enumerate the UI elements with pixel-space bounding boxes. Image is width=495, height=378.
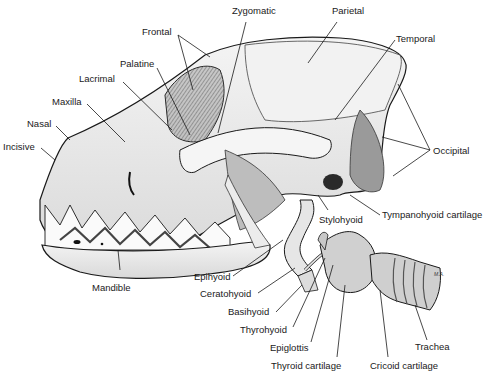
thyroid-cartilage-shape: [320, 232, 376, 293]
label-trachea: Trachea: [415, 341, 450, 352]
label-parietal: Parietal: [332, 5, 364, 16]
label-maxilla: Maxilla: [52, 96, 82, 107]
skull-diagram: Frontal Zygomatic Parietal Palatine Temp…: [0, 0, 495, 378]
label-occipital: Occipital: [433, 145, 469, 156]
label-frontal: Frontal: [142, 26, 172, 37]
label-palatine: Palatine: [120, 58, 154, 69]
label-tympanohyoid-cartilage: Tympanohyoid cartilage: [382, 209, 482, 220]
label-nasal: Nasal: [27, 118, 51, 129]
artist-signature: M.A.: [434, 271, 444, 277]
label-mandible: Mandible: [92, 282, 131, 293]
label-epihyoid: Epihyoid: [194, 271, 230, 282]
label-zygomatic: Zygomatic: [232, 5, 276, 16]
label-thyrohyoid: Thyrohyoid: [240, 324, 287, 335]
label-cricoid-cartilage: Cricoid cartilage: [370, 360, 438, 371]
label-temporal: Temporal: [396, 33, 435, 44]
label-incisive: Incisive: [3, 141, 35, 152]
label-ceratohyoid: Ceratohyoid: [200, 288, 251, 299]
label-basihyoid: Basihyoid: [228, 306, 269, 317]
skull-illustration: [0, 0, 495, 378]
label-lacrimal: Lacrimal: [79, 73, 115, 84]
label-thyroid-cartilage: Thyroid cartilage: [271, 360, 341, 371]
label-stylohyoid: Stylohyoid: [319, 214, 363, 225]
label-epiglottis: Epiglottis: [270, 342, 309, 353]
